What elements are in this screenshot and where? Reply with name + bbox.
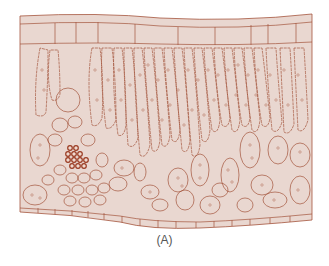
leaf-cross-section-diagram [0,0,329,266]
figure-caption: (A) [0,233,329,247]
leaf-tissue [20,14,312,228]
